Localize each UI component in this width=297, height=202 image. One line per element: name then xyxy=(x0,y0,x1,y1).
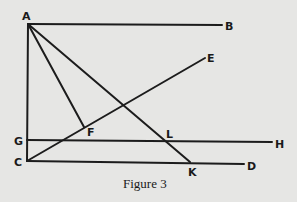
segment-cd xyxy=(27,161,244,164)
segment-ab xyxy=(28,24,222,25)
label-e: E xyxy=(207,52,215,65)
label-g: G xyxy=(14,135,23,148)
label-d: D xyxy=(247,160,256,173)
label-a: A xyxy=(22,10,31,23)
geometry-figure: A B E F L G H C D K Figure 3 xyxy=(0,0,297,202)
label-f: F xyxy=(87,126,95,139)
label-b: B xyxy=(225,20,233,33)
segment-gh xyxy=(27,140,272,142)
label-l: L xyxy=(166,128,173,141)
label-h: H xyxy=(275,138,284,151)
label-c: C xyxy=(14,156,22,169)
label-k: K xyxy=(188,166,197,179)
segment-ce xyxy=(27,58,205,161)
segment-af xyxy=(28,24,84,127)
figure-caption: Figure 3 xyxy=(123,176,167,191)
